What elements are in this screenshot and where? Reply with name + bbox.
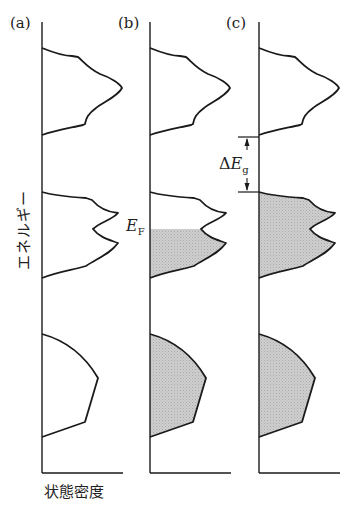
energy-axis-label: エネルギー bbox=[12, 190, 33, 270]
panel-a bbox=[42, 22, 123, 473]
panel-b-lower-filled bbox=[150, 334, 206, 437]
panel-c-label: (c) bbox=[226, 14, 246, 32]
panel-c bbox=[238, 22, 340, 473]
dos-diagram-svg bbox=[0, 0, 358, 515]
panel-a-label: (a) bbox=[10, 14, 31, 32]
panel-b-upper-band bbox=[150, 48, 230, 135]
panel-c-upper-band bbox=[259, 48, 339, 135]
band-gap-label: ΔEg bbox=[219, 154, 249, 175]
panel-a-lower-band bbox=[42, 334, 98, 437]
arrow-up-icon bbox=[245, 138, 250, 146]
fermi-level-label: EF bbox=[126, 216, 145, 237]
panel-a-middle-band bbox=[42, 192, 118, 278]
panel-c-middle-filled bbox=[259, 192, 335, 278]
panel-b bbox=[150, 22, 231, 473]
panel-b-label: (b) bbox=[118, 14, 139, 32]
arrow-down-icon bbox=[245, 183, 250, 191]
dos-axis-label: 状態密度 bbox=[44, 480, 104, 501]
panel-c-lower-filled bbox=[259, 334, 315, 437]
panel-a-upper-band bbox=[42, 48, 122, 135]
density-of-states-figure: (a) (b) (c) エネルギー 状態密度 EF ΔEg bbox=[0, 0, 358, 515]
